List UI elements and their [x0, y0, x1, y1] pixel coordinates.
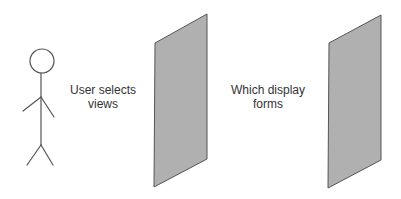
figure-right-arm — [41, 97, 54, 117]
view-panel-2 — [328, 15, 381, 188]
label-line-1: User selects — [63, 83, 143, 97]
label-which-display-forms: Which display forms — [226, 83, 310, 111]
label-line-2: views — [63, 97, 143, 111]
stick-figure-icon — [23, 49, 54, 165]
figure-right-leg — [41, 145, 53, 165]
diagram-canvas — [0, 0, 401, 199]
label-user-selects-views: User selects views — [63, 83, 143, 111]
figure-left-arm — [23, 97, 41, 111]
figure-head — [30, 49, 54, 73]
label-line-2: forms — [226, 97, 310, 111]
view-panel-1 — [154, 14, 207, 187]
label-line-1: Which display — [226, 83, 310, 97]
figure-left-leg — [27, 145, 41, 165]
